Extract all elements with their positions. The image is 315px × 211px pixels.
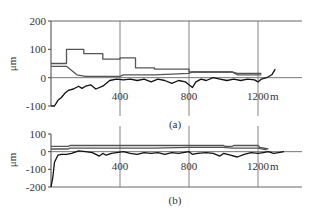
- x-tick-label: 800: [181, 160, 198, 172]
- x-tick-label: 1200: [247, 90, 270, 102]
- chart-panel-a: 2001000-100 4008001200 μm m (a): [6, 15, 302, 131]
- y-axis-ticks-b: 1000-100-200: [26, 128, 51, 193]
- series-lower-envelope: [51, 147, 267, 150]
- y-axis-ticks-a: 2001000-100: [26, 15, 51, 112]
- y-tick-label: -100: [26, 100, 47, 112]
- x-tick-label: 800: [181, 90, 198, 102]
- y-tick-label: 0: [41, 146, 47, 158]
- x-axis-unit-b: m: [270, 160, 279, 172]
- y-tick-label: 0: [41, 72, 47, 84]
- chart-canvas: 2001000-100 4008001200 μm m (a) 1000-100…: [0, 0, 315, 211]
- x-axis-ticks-b: 4008001200: [112, 160, 270, 172]
- series-lower-envelope: [51, 66, 261, 76]
- y-axis-label-b: μm: [6, 152, 18, 167]
- chart-panel-b: 1000-100-200 4008001200 μm m (b): [6, 126, 302, 207]
- y-tick-label: -100: [26, 163, 47, 175]
- panel-label-a: (a): [169, 118, 182, 131]
- x-axis-unit-a: m: [270, 90, 279, 102]
- y-tick-label: 200: [30, 15, 47, 27]
- y-tick-label: -200: [26, 181, 47, 193]
- x-axis-ticks-a: 4008001200: [112, 90, 270, 102]
- panel-label-b: (b): [169, 194, 182, 207]
- x-tick-label: 400: [112, 160, 129, 172]
- y-tick-label: 100: [30, 43, 47, 55]
- y-axis-label-a: μm: [6, 56, 18, 71]
- x-tick-label: 400: [112, 90, 129, 102]
- series-upper-envelope: [51, 49, 261, 73]
- y-tick-label: 100: [30, 128, 47, 140]
- x-tick-label: 1200: [247, 160, 270, 172]
